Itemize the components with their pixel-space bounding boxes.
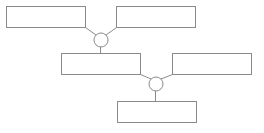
joint-circle-1[interactable] [94,33,108,47]
edge-box4-joint2 [161,75,173,80]
node-box-5[interactable] [118,102,197,123]
diagram-canvas [0,0,264,133]
edge-box2-joint1 [106,28,117,36]
edge-box1-joint1 [86,28,97,36]
node-box-3[interactable] [62,54,141,75]
edge-box3-joint2 [141,75,152,80]
joint-circle-2[interactable] [149,77,163,91]
node-box-2[interactable] [117,7,196,28]
node-box-1[interactable] [7,7,86,28]
node-box-4[interactable] [173,54,252,75]
